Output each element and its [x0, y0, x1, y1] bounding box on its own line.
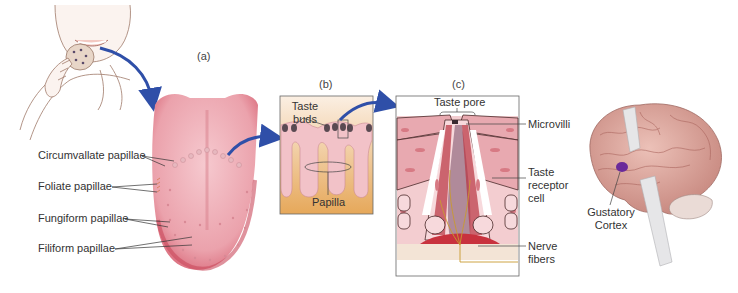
label-taste-pore: Taste pore	[434, 96, 485, 109]
label-receptor-line1: Taste	[528, 166, 568, 179]
label-papilla: Papilla	[312, 196, 345, 209]
label-nerve-line1: Nerve	[528, 240, 557, 253]
tongue-illustration	[152, 94, 258, 270]
label-gustatory-line2: Cortex	[586, 219, 636, 232]
label-nerve-fibers: Nerve fibers	[528, 240, 557, 266]
label-gustatory-cortex: Gustatory Cortex	[586, 206, 636, 232]
label-receptor-line2: receptor	[528, 179, 568, 192]
panel-label-c: (c)	[452, 78, 465, 90]
brain-illustration	[590, 104, 722, 266]
label-taste-buds-line2: buds	[290, 113, 320, 126]
label-nerve-line2: fibers	[528, 253, 557, 266]
label-foliate-papillae: Foliate papillae	[38, 180, 112, 193]
panel-label-b: (b)	[319, 78, 332, 90]
tastebud-panel-art	[396, 96, 519, 276]
label-filiform-papillae: Filiform papillae	[38, 242, 115, 255]
label-fungiform-papillae: Fungiform papillae	[38, 212, 129, 225]
label-taste-buds-line1: Taste	[290, 100, 320, 113]
person-eating-illustration	[20, 5, 131, 140]
label-taste-buds: Taste buds	[290, 100, 320, 126]
label-taste-receptor-cell: Taste receptor cell	[528, 166, 568, 205]
label-microvilli: Microvilli	[528, 118, 570, 131]
label-gustatory-line1: Gustatory	[586, 206, 636, 219]
panel-label-a: (a)	[197, 50, 210, 62]
label-receptor-line3: cell	[528, 192, 568, 205]
label-circumvallate-papillae: Circumvallate papillae	[38, 149, 146, 162]
hand-illustration	[45, 58, 72, 97]
